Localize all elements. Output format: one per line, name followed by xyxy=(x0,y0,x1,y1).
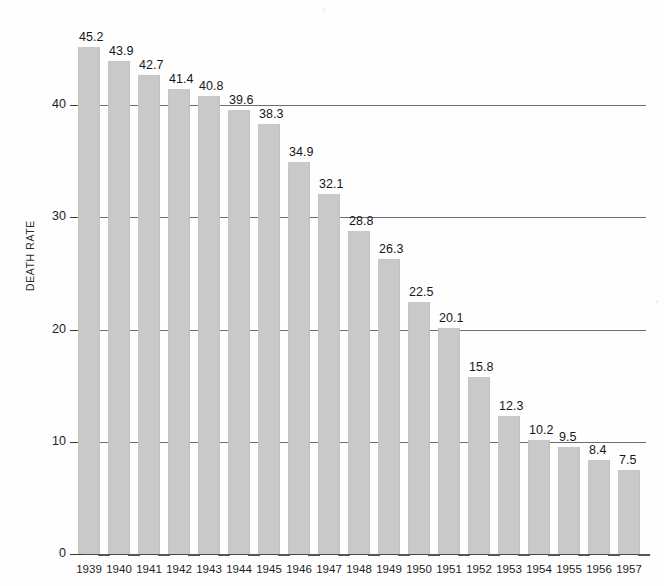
x-tick-label-1957: 1957 xyxy=(612,563,646,575)
bar-value-label: 43.9 xyxy=(109,44,133,58)
x-tick-label-1955: 1955 xyxy=(552,563,586,575)
x-tick-mark xyxy=(368,554,380,556)
bar-value-label: 20.1 xyxy=(439,311,463,325)
x-tick-mark xyxy=(248,554,260,556)
x-tick-label-1943: 1943 xyxy=(192,563,226,575)
y-tick-label-30: 30 xyxy=(38,209,66,223)
x-tick-label-1944: 1944 xyxy=(222,563,256,575)
x-tick-mark xyxy=(428,554,440,556)
x-tick-mark xyxy=(458,554,470,556)
x-tick-label-1948: 1948 xyxy=(342,563,376,575)
bar-value-label: 41.4 xyxy=(169,72,193,86)
bar xyxy=(108,61,130,554)
x-tick-label-1949: 1949 xyxy=(372,563,406,575)
bar-value-label: 10.2 xyxy=(529,423,553,437)
bar-value-label: 15.8 xyxy=(469,360,493,374)
x-tick-mark xyxy=(398,554,410,556)
x-tick-label-1952: 1952 xyxy=(462,563,496,575)
x-tick-mark xyxy=(338,554,350,556)
bar xyxy=(498,416,520,554)
bar xyxy=(138,75,160,554)
bar xyxy=(198,96,220,554)
bar-value-label: 45.2 xyxy=(79,30,103,44)
x-tick-mark xyxy=(578,554,590,556)
x-tick-label-1939: 1939 xyxy=(72,563,106,575)
y-tick-label-10: 10 xyxy=(38,434,66,448)
bar xyxy=(558,447,580,554)
bar xyxy=(78,47,100,554)
bar-value-label: 7.5 xyxy=(619,453,636,467)
x-tick-mark xyxy=(638,554,650,556)
bar-value-label: 28.8 xyxy=(349,214,373,228)
x-tick-label-1954: 1954 xyxy=(522,563,556,575)
bar-value-label: 26.3 xyxy=(379,242,403,256)
x-tick-label-1946: 1946 xyxy=(282,563,316,575)
x-tick-mark xyxy=(158,554,170,556)
bar-value-label: 38.3 xyxy=(259,107,283,121)
bar-value-label: 12.3 xyxy=(499,399,523,413)
x-tick-mark xyxy=(98,554,110,556)
y-tick-label-20: 20 xyxy=(38,322,66,336)
x-tick-label-1956: 1956 xyxy=(582,563,616,575)
bar xyxy=(588,460,610,554)
bar xyxy=(258,124,280,554)
x-tick-mark xyxy=(608,554,620,556)
bar-value-label: 9.5 xyxy=(559,430,576,444)
bar xyxy=(468,377,490,554)
bar xyxy=(288,162,310,554)
x-tick-label-1953: 1953 xyxy=(492,563,526,575)
bar-value-label: 34.9 xyxy=(289,145,313,159)
bar xyxy=(168,89,190,554)
y-tick-label-40: 40 xyxy=(38,97,66,111)
x-tick-mark xyxy=(518,554,530,556)
bar-value-label: 8.4 xyxy=(589,443,606,457)
bar xyxy=(378,259,400,554)
x-tick-label-1940: 1940 xyxy=(102,563,136,575)
bar-value-label: 42.7 xyxy=(139,58,163,72)
x-tick-label-1950: 1950 xyxy=(402,563,436,575)
bar xyxy=(228,110,250,554)
x-tick-mark xyxy=(278,554,290,556)
x-tick-mark xyxy=(188,554,200,556)
bar-value-label: 32.1 xyxy=(319,177,343,191)
x-tick-label-1942: 1942 xyxy=(162,563,196,575)
bar xyxy=(318,194,340,554)
bar xyxy=(348,231,370,554)
bar xyxy=(438,328,460,554)
y-tick-mark xyxy=(70,554,84,555)
bar xyxy=(408,302,430,554)
x-tick-mark xyxy=(308,554,320,556)
bar xyxy=(528,440,550,554)
plot-area: 01020304045.2193943.9194042.7194141.4194… xyxy=(0,0,664,586)
y-tick-label-0: 0 xyxy=(38,546,66,560)
bar-value-label: 22.5 xyxy=(409,285,433,299)
x-tick-label-1945: 1945 xyxy=(252,563,286,575)
bar-value-label: 39.6 xyxy=(229,93,253,107)
bar-chart: DEATH RATE 01020304045.2193943.9194042.7… xyxy=(0,0,664,586)
x-tick-label-1947: 1947 xyxy=(312,563,346,575)
x-tick-label-1951: 1951 xyxy=(432,563,466,575)
x-tick-mark xyxy=(128,554,140,556)
bar-value-label: 40.8 xyxy=(199,79,223,93)
x-tick-mark xyxy=(548,554,560,556)
x-tick-label-1941: 1941 xyxy=(132,563,166,575)
bar xyxy=(618,470,640,554)
x-tick-mark xyxy=(218,554,230,556)
x-tick-mark xyxy=(488,554,500,556)
